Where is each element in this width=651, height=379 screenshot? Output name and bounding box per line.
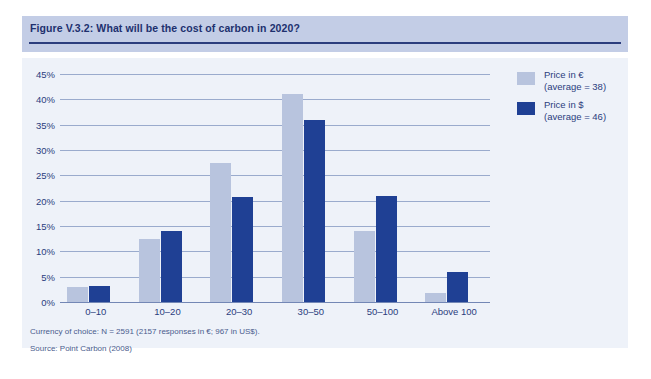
y-tick-label: 45% — [36, 69, 55, 80]
footnote-currency: Currency of choice: N = 2591 (2157 respo… — [30, 327, 260, 336]
legend-item-eur: Price in € (average = 38) — [517, 70, 627, 100]
x-tick-label: 20–30 — [203, 306, 275, 317]
legend-label-usd: Price in $ (average = 46) — [544, 99, 606, 122]
bar-usd[interactable] — [304, 120, 325, 302]
x-tick-label: 0–10 — [60, 306, 132, 317]
bar-eur[interactable] — [139, 239, 160, 302]
bars-layer — [60, 74, 490, 302]
y-tick-label: 5% — [41, 271, 55, 282]
bar-usd[interactable] — [447, 272, 468, 302]
x-tick-label: 30–50 — [275, 306, 347, 317]
bar-group — [132, 74, 204, 302]
footnote-source: Source: Point Carbon (2008) — [30, 344, 132, 353]
legend-swatch-eur — [517, 72, 535, 85]
bar-eur[interactable] — [354, 231, 375, 302]
y-tick-label: 15% — [36, 221, 55, 232]
plot-area — [60, 74, 490, 302]
bar-group — [275, 74, 347, 302]
y-tick-label: 40% — [36, 94, 55, 105]
legend-swatch-usd — [517, 102, 535, 115]
x-tick-label: 50–100 — [347, 306, 419, 317]
legend-item-usd: Price in $ (average = 46) — [517, 100, 627, 130]
bar-group — [60, 74, 132, 302]
y-tick-label: 35% — [36, 119, 55, 130]
bar-group — [418, 74, 490, 302]
y-tick-label: 0% — [41, 297, 55, 308]
y-tick-label: 20% — [36, 195, 55, 206]
legend-label-eur-line1: Price in € — [544, 69, 584, 80]
x-tick-label: Above 100 — [418, 306, 490, 317]
bar-eur[interactable] — [67, 287, 88, 302]
y-tick-label: 10% — [36, 246, 55, 257]
axis-baseline — [60, 302, 490, 303]
bar-group — [203, 74, 275, 302]
legend-label-usd-line2: (average = 46) — [544, 111, 606, 122]
bar-usd[interactable] — [161, 231, 182, 302]
legend-label-eur: Price in € (average = 38) — [544, 69, 606, 92]
y-tick-label: 25% — [36, 170, 55, 181]
chart-panel: 0%5%10%15%20%25%30%35%40%45% Price in € … — [22, 58, 628, 348]
figure-title-rule — [29, 42, 621, 44]
x-tick-label: 10–20 — [132, 306, 204, 317]
bar-usd[interactable] — [232, 197, 253, 302]
bar-usd[interactable] — [376, 196, 397, 302]
figure-header-band: Figure V.3.2: What will be the cost of c… — [22, 16, 628, 52]
bar-eur[interactable] — [425, 293, 446, 302]
legend-label-eur-line2: (average = 38) — [544, 81, 606, 92]
y-axis: 0%5%10%15%20%25%30%35%40%45% — [22, 74, 55, 302]
legend-label-usd-line1: Price in $ — [544, 99, 584, 110]
bar-eur[interactable] — [210, 163, 231, 302]
y-tick-label: 30% — [36, 145, 55, 156]
figure-title: Figure V.3.2: What will be the cost of c… — [30, 22, 300, 34]
bar-group — [347, 74, 419, 302]
bar-usd[interactable] — [89, 286, 110, 302]
bar-eur[interactable] — [282, 94, 303, 302]
chart-legend: Price in € (average = 38) Price in $ (av… — [517, 70, 627, 130]
